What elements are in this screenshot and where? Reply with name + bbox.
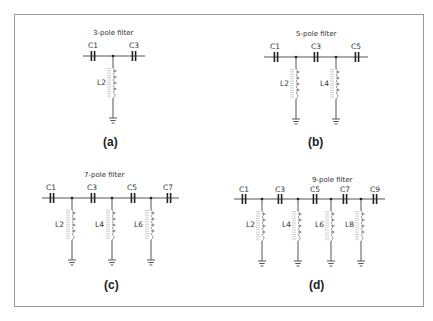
- label-l2: L2: [246, 220, 255, 229]
- filter-schematics: 3-pole filter C1 C3 L2 (a) 5-pole filter…: [0, 0, 433, 321]
- label-c3: C3: [129, 41, 139, 50]
- inductor-l2: [67, 197, 76, 265]
- label-c1: C1: [46, 183, 56, 192]
- label-c5: C5: [310, 185, 320, 194]
- panel-c-title: 7-pole filter: [84, 171, 125, 179]
- inductor-l6: [326, 198, 335, 266]
- panel-d-title: 9-pole filter: [312, 176, 353, 184]
- inductor-l2: [291, 56, 300, 124]
- label-c3: C3: [87, 183, 97, 192]
- label-c1: C1: [88, 41, 98, 50]
- label-l4: L4: [282, 220, 291, 229]
- inductor-l2: [257, 198, 266, 266]
- label-l4: L4: [95, 220, 104, 229]
- label-l2: L2: [55, 220, 64, 229]
- label-l2: L2: [280, 79, 289, 88]
- inductor-l4: [107, 197, 116, 265]
- panel-b-label: (b): [308, 135, 323, 149]
- label-c7: C7: [340, 185, 350, 194]
- panel-d-label: (d): [309, 278, 324, 292]
- label-c1: C1: [270, 42, 280, 51]
- inductor-l4: [293, 198, 302, 266]
- label-l6: L6: [315, 220, 324, 229]
- label-c1: C1: [239, 185, 249, 194]
- label-c5: C5: [351, 42, 361, 51]
- panel-a: 3-pole filter C1 C3 L2 (a): [83, 29, 145, 149]
- label-c9: C9: [370, 185, 380, 194]
- label-l4: L4: [320, 79, 329, 88]
- label-l6: L6: [134, 220, 143, 229]
- panel-a-label: (a): [103, 135, 118, 149]
- panel-c: 7-pole filter C1 C3 C5 C7 L2 L4 L6 (c): [42, 171, 179, 292]
- inductor-l2: [108, 55, 117, 123]
- label-l8: L8: [345, 220, 354, 229]
- panel-a-title: 3-pole filter: [93, 29, 134, 37]
- label-c3: C3: [275, 185, 285, 194]
- inductor-l4: [331, 56, 340, 124]
- label-c3: C3: [311, 42, 321, 51]
- label-c7: C7: [163, 183, 173, 192]
- panel-b: 5-pole filter C1 C3 C5 L2 L4 (b): [264, 30, 368, 149]
- inductor-l8: [356, 198, 365, 266]
- label-l2: L2: [97, 78, 106, 87]
- inductor-l6: [146, 197, 155, 265]
- panel-b-title: 5-pole filter: [296, 30, 337, 38]
- label-c5: C5: [127, 183, 137, 192]
- panel-d: 9-pole filter C1 C3 C5 C7 C9 L2 L4 L6 L8…: [234, 176, 385, 292]
- panel-c-label: (c): [104, 278, 119, 292]
